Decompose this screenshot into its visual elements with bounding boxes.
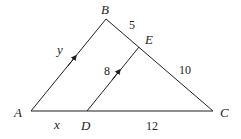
vertex-label-c: C [220, 105, 229, 120]
segment-label-ec: 10 [179, 63, 191, 77]
segment-label-de: 8 [104, 64, 110, 78]
segment-label-ad: x [53, 117, 60, 132]
segment-label-dc: 12 [146, 119, 158, 133]
parallel-arrow-de [112, 71, 119, 80]
segment-bc [106, 19, 213, 111]
triangle-diagram: A B C D E x 12 y 5 10 8 [0, 0, 241, 139]
segment-label-be: 5 [129, 18, 135, 32]
vertex-label-a: A [13, 105, 22, 120]
vertex-label-d: D [80, 118, 91, 133]
vertex-label-b: B [101, 2, 109, 17]
vertex-label-e: E [144, 32, 153, 47]
segment-label-ab: y [55, 42, 63, 57]
parallel-arrow-ab [68, 57, 75, 66]
